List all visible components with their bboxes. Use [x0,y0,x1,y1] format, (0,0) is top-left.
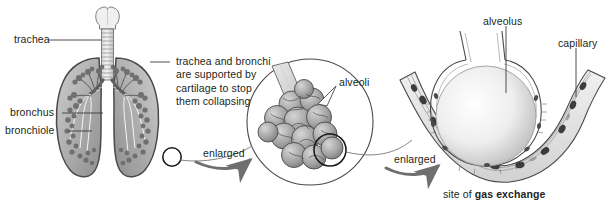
caption-emphasis: gas exchange [475,188,546,200]
label-enlarged-2: enlarged [394,153,436,166]
note-line-1: trachea and bronchi [176,55,271,68]
caption-gas-exchange: site of gas exchange [443,188,545,201]
enlarged-arrow-2 [386,166,438,175]
diagram-canvas: trachea bronchus bronchiole trachea and … [0,0,613,210]
note-cartilage: trachea and bronchi are supported by car… [176,55,271,109]
caption-prefix: site of [443,188,475,200]
label-capillary: capillary [558,37,597,50]
alveolus-sphere [436,66,536,166]
label-bronchiole: bronchiole [5,124,54,137]
label-enlarged-1: enlarged [203,147,245,160]
zoom-marker-circle-lungs [163,148,181,166]
diagram-graphics [0,0,613,210]
alveolus-capillary-panel [346,31,605,182]
label-bronchus: bronchus [10,106,54,119]
note-line-2: are supported by [176,68,271,81]
label-trachea: trachea [14,33,50,46]
enlarged-arrow-1 [196,160,250,169]
lungs-panel [56,7,181,177]
note-line-4: them collapsing [176,95,271,108]
note-line-3: cartilage to stop [176,82,271,95]
label-alveolus: alveolus [483,15,522,28]
label-alveoli: alveoli [339,76,369,89]
